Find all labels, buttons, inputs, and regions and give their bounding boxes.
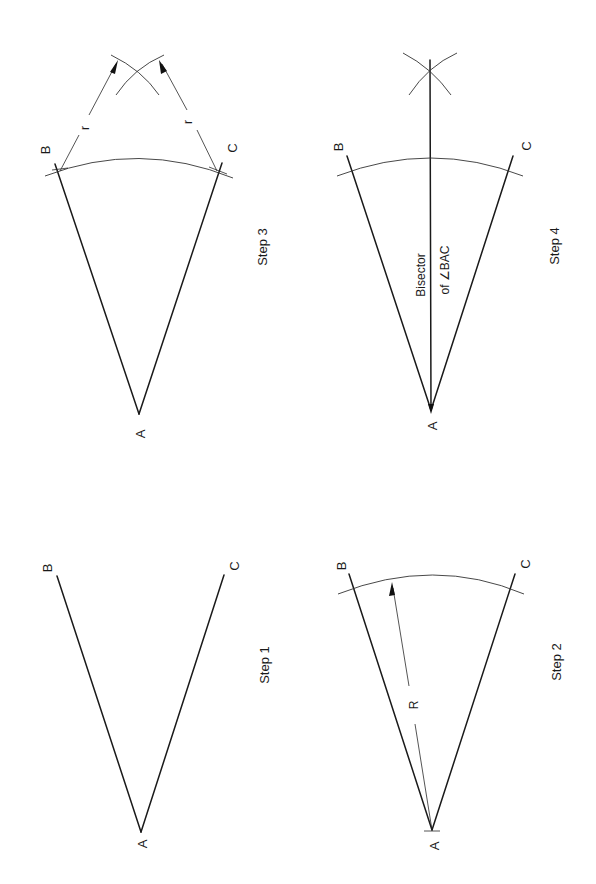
step-4-panel: Bisector of ∠BAC A B C Step 4 xyxy=(331,53,562,430)
step-3-panel: r r A B C Step 3 xyxy=(38,55,270,438)
arrowhead-R-icon xyxy=(389,582,395,596)
point-label-b: B xyxy=(38,146,53,155)
side-ab xyxy=(55,164,139,414)
point-label-b: B xyxy=(334,562,349,571)
arc-from-c xyxy=(403,53,451,95)
side-ac xyxy=(141,575,224,832)
point-label-c: C xyxy=(225,143,240,152)
point-label-a: A xyxy=(427,841,442,850)
arc-r-main xyxy=(45,158,233,178)
point-label-a: A xyxy=(135,839,150,848)
dim-line-c-1 xyxy=(197,130,217,171)
dim-line-b-1 xyxy=(60,135,79,171)
side-ac xyxy=(139,163,222,414)
bisector-annotation-line1: Bisector xyxy=(414,253,428,296)
arc-radius-R xyxy=(338,575,524,594)
dim-label-R: R xyxy=(407,700,421,709)
step-2-panel: R A B C Step 2 xyxy=(334,559,564,850)
angle-bisection-diagram: r r A B C Step 3 Bisector of ∠BAC A B C … xyxy=(0,0,596,884)
step-1-panel: A B C Step 1 xyxy=(40,561,272,848)
dim-label-r-c: r xyxy=(181,120,195,124)
point-label-b: B xyxy=(40,564,55,573)
point-label-c: C xyxy=(518,559,533,568)
side-ac xyxy=(432,574,515,830)
arrowhead-b-icon xyxy=(110,60,118,74)
point-label-a: A xyxy=(425,421,440,430)
arc-from-b xyxy=(116,55,164,95)
point-label-b: B xyxy=(331,143,346,152)
step-caption: Step 4 xyxy=(547,227,562,265)
arrowhead-c-icon xyxy=(159,60,167,74)
dim-line-R-2 xyxy=(393,588,409,686)
side-ab xyxy=(57,576,141,832)
step-caption: Step 2 xyxy=(549,643,564,681)
vertex-marker-icon xyxy=(428,404,434,414)
bisector-annotation-line2: of ∠BAC xyxy=(438,245,452,294)
point-label-c: C xyxy=(519,141,534,150)
dim-label-r-b: r xyxy=(78,126,92,130)
step-caption: Step 1 xyxy=(257,646,272,684)
point-label-c: C xyxy=(227,561,242,570)
bisector-line xyxy=(430,60,431,410)
dim-line-R-1 xyxy=(415,724,432,830)
point-label-a: A xyxy=(133,429,148,438)
step-caption: Step 3 xyxy=(255,228,270,266)
